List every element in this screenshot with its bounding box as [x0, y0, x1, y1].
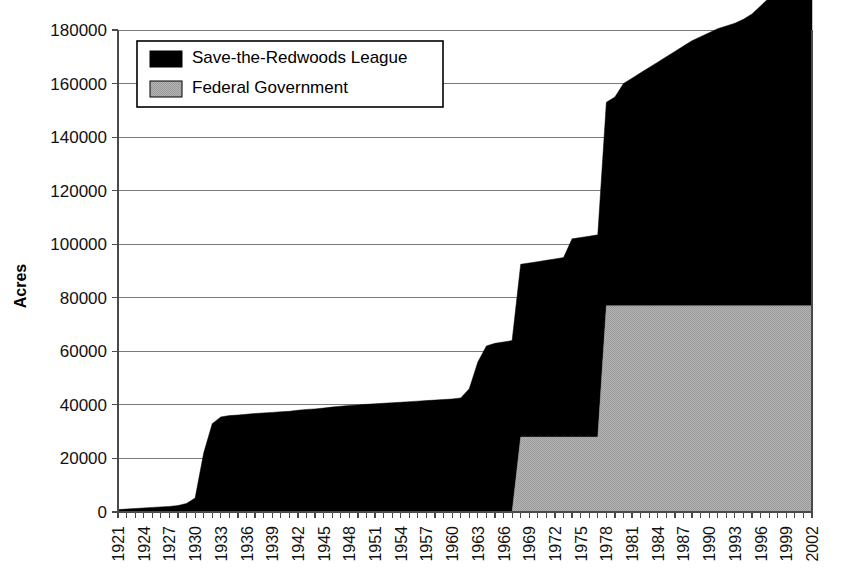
x-tick-label: 1951	[367, 526, 384, 562]
y-tick-label: 160000	[50, 75, 107, 94]
x-tick-label: 2002	[804, 526, 821, 562]
x-tick-label: 1975	[573, 526, 590, 562]
x-tick-label: 1930	[187, 526, 204, 562]
x-tick-label: 1990	[701, 526, 718, 562]
x-tick-label: 1996	[753, 526, 770, 562]
x-tick-label: 1981	[624, 526, 641, 562]
y-tick-label: 80000	[60, 289, 107, 308]
y-tick-label: 120000	[50, 182, 107, 201]
y-tick-label: 60000	[60, 342, 107, 361]
x-tick-label: 1954	[393, 526, 410, 562]
x-tick-label: 1987	[675, 526, 692, 562]
x-tick-label: 1924	[136, 526, 153, 562]
x-tick-label: 1939	[264, 526, 281, 562]
x-tick-label: 1933	[213, 526, 230, 562]
x-tick-label: 1921	[110, 526, 127, 562]
y-tick-label: 100000	[50, 235, 107, 254]
x-tick-label: 1966	[496, 526, 513, 562]
legend-label: Save-the-Redwoods League	[192, 48, 407, 67]
black-swatch-icon	[150, 51, 182, 67]
x-tick-label: 1942	[290, 526, 307, 562]
legend-label: Federal Government	[192, 78, 348, 97]
x-tick-label: 1927	[161, 526, 178, 562]
x-tick-label: 1999	[778, 526, 795, 562]
x-tick-label: 1978	[598, 526, 615, 562]
x-tick-label: 1945	[316, 526, 333, 562]
x-tick-label: 1984	[650, 526, 667, 562]
x-tick-label: 1972	[547, 526, 564, 562]
x-tick-label: 1936	[239, 526, 256, 562]
y-tick-label: 40000	[60, 396, 107, 415]
y-tick-label: 20000	[60, 449, 107, 468]
x-tick-label: 1957	[418, 526, 435, 562]
x-tick-label: 1969	[521, 526, 538, 562]
gray-swatch-icon	[150, 81, 182, 97]
x-tick-label: 1960	[444, 526, 461, 562]
chart-legend: Save-the-Redwoods LeagueFederal Governme…	[137, 41, 443, 107]
y-tick-label: 0	[98, 503, 107, 522]
stacked-area-chart: 0200004000060000800001000001200001400001…	[0, 0, 841, 588]
y-tick-label: 140000	[50, 128, 107, 147]
chart-container: 0200004000060000800001000001200001400001…	[0, 0, 841, 588]
y-axis-title: Acres	[12, 264, 29, 309]
x-tick-label: 1948	[341, 526, 358, 562]
y-tick-label: 180000	[50, 21, 107, 40]
x-tick-label: 1963	[470, 526, 487, 562]
x-tick-label: 1993	[727, 526, 744, 562]
